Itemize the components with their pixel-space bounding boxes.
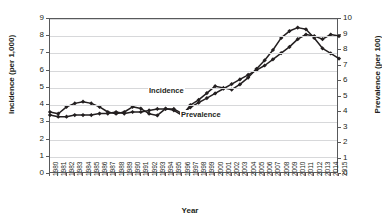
x-axis-tick: [66, 173, 67, 176]
x-axis-tick: [264, 173, 265, 176]
x-axis-tick: [82, 173, 83, 176]
gridline: [50, 122, 337, 123]
y-axis-right-tick: [338, 34, 341, 35]
x-axis-tick: [272, 173, 273, 176]
x-axis-tick: [313, 173, 314, 176]
x-axis-tick: [222, 173, 223, 176]
data-point-marker: [81, 100, 85, 104]
data-point-marker: [73, 113, 77, 117]
y-axis-right-tick-label: 0: [343, 169, 357, 177]
data-point-marker: [56, 115, 60, 119]
x-axis-tick: [107, 173, 108, 176]
data-point-marker: [139, 110, 143, 114]
x-axis-tick: [156, 173, 157, 176]
x-axis-tick: [49, 173, 50, 176]
y-axis-right-tick-label: 1: [343, 154, 357, 162]
x-axis-tick: [99, 173, 100, 176]
x-axis-tick: [57, 173, 58, 176]
gridline: [50, 19, 337, 20]
y-axis-right-tick-label: 5: [343, 92, 357, 100]
x-axis-tick-labels: 1980198119821983198419851986198719881989…: [49, 175, 338, 205]
data-point-marker: [48, 113, 52, 117]
data-point-marker: [130, 110, 134, 114]
y-axis-right-tick: [338, 142, 341, 143]
x-axis-tick: [198, 173, 199, 176]
series-canvas: [50, 19, 339, 174]
y-axis-right-tick-label: 4: [343, 107, 357, 115]
y-axis-left-tick: [46, 139, 49, 140]
x-axis-tick: [74, 173, 75, 176]
y-axis-left-tick: [46, 70, 49, 71]
data-point-marker: [97, 111, 101, 115]
y-axis-left-tick-label: 1: [30, 152, 44, 160]
x-axis-tick: [206, 173, 207, 176]
gridline: [50, 53, 337, 54]
y-axis-left-tick: [46, 18, 49, 19]
y-axis-right-tick: [338, 80, 341, 81]
gridline: [50, 140, 337, 141]
x-axis-tick: [305, 173, 306, 176]
x-axis-tick: [280, 173, 281, 176]
x-axis-tick: [165, 173, 166, 176]
x-axis-tick: [189, 173, 190, 176]
y-axis-right-tick-label: 6: [343, 76, 357, 84]
x-axis-tick: [338, 173, 339, 176]
gridline: [50, 105, 337, 106]
x-axis-tick: [115, 173, 116, 176]
y-axis-left-tick-label: 3: [30, 117, 44, 125]
y-axis-right-tick: [338, 49, 341, 50]
y-axis-left-tick: [46, 52, 49, 53]
x-axis-title: Year: [0, 206, 380, 215]
y-axis-right-tick-label: 10: [343, 14, 357, 22]
x-axis-tick: [181, 173, 182, 176]
x-axis-tick: [297, 173, 298, 176]
y-axis-right-tick: [338, 158, 341, 159]
series-label-incidence: Incidence: [148, 86, 185, 95]
y-axis-left-tick-label: 4: [30, 100, 44, 108]
x-axis-tick: [123, 173, 124, 176]
y-axis-right-tick-label: 8: [343, 45, 357, 53]
y-axis-left-tick: [46, 104, 49, 105]
data-point-marker: [337, 34, 341, 38]
y-axis-left-tick: [46, 121, 49, 122]
data-point-marker: [89, 113, 93, 117]
y-axis-right-tick: [338, 65, 341, 66]
y-axis-right-tick: [338, 96, 341, 97]
y-axis-left-tick-label: 7: [30, 48, 44, 56]
y-axis-right-tick: [338, 18, 341, 19]
y-axis-right-tick: [338, 111, 341, 112]
y-axis-left-tick-label: 9: [30, 14, 44, 22]
y-axis-left-tick: [46, 87, 49, 88]
y-axis-left-tick-label: 2: [30, 135, 44, 143]
y-axis-right-tick-label: 3: [343, 123, 357, 131]
gridline: [50, 157, 337, 158]
y-axis-left-tick-label: 0: [30, 169, 44, 177]
x-axis-tick: [173, 173, 174, 176]
gridline: [50, 71, 337, 72]
y-axis-right-tick-label: 7: [343, 61, 357, 69]
y-axis-left-title: Incidence (per 1,000): [7, 20, 16, 130]
y-axis-left-tick: [46, 156, 49, 157]
y-axis-left-tick-label: 8: [30, 31, 44, 39]
series-label-prevalence: Prevalence: [180, 110, 222, 119]
gridline: [50, 88, 337, 89]
data-point-marker: [296, 25, 300, 29]
y-axis-left-tick-label: 6: [30, 66, 44, 74]
x-axis-tick: [214, 173, 215, 176]
y-axis-right-tick-label: 9: [343, 30, 357, 38]
x-axis-tick: [255, 173, 256, 176]
x-axis-tick: [247, 173, 248, 176]
x-axis-tick: [140, 173, 141, 176]
y-axis-left-tick: [46, 35, 49, 36]
x-axis-tick: [90, 173, 91, 176]
x-axis-tick: [288, 173, 289, 176]
gridline: [50, 36, 337, 37]
y-axis-right-tick: [338, 127, 341, 128]
y-axis-right-tick-label: 2: [343, 138, 357, 146]
y-axis-left-tick-label: 5: [30, 83, 44, 91]
x-axis-tick: [132, 173, 133, 176]
x-axis-tick: [148, 173, 149, 176]
data-point-marker: [64, 115, 68, 119]
x-axis-tick: [239, 173, 240, 176]
